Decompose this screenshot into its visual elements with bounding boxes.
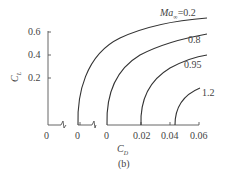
x-tick-label: 0 xyxy=(75,131,80,141)
x-tick-label: 0.02 xyxy=(133,131,151,141)
x-axis-break-1 xyxy=(48,121,66,128)
curve-ma-0.8 xyxy=(107,34,207,125)
x-axis-break-2 xyxy=(78,121,96,128)
x-tick-label: 0.06 xyxy=(190,131,208,141)
curve-ma-1.2 xyxy=(175,88,200,125)
x-axis-title: CD xyxy=(117,144,128,158)
y-axis-title: CL xyxy=(10,72,24,82)
y-tick-label: 0.6 xyxy=(28,27,41,37)
x-tick-label: 0.04 xyxy=(161,131,179,141)
curve-label-0.95: 0.95 xyxy=(184,60,202,70)
x-tick-label: 0 xyxy=(44,131,49,141)
curve-label-1.2: 1.2 xyxy=(202,88,215,98)
x-tick-label: 0 xyxy=(104,131,109,141)
curve-label-0.8: 0.8 xyxy=(188,35,201,45)
curve-label-ma-0.2: Ma∞=0.2 xyxy=(160,8,196,22)
figure-caption: (b) xyxy=(118,159,130,169)
y-tick-label: 0.4 xyxy=(28,50,41,60)
y-tick-label: 0.2 xyxy=(28,73,41,83)
chart-figure: 0.6 0.4 0.2 CL 0 0 0 0.02 0.04 0.06 CD (… xyxy=(0,0,225,182)
